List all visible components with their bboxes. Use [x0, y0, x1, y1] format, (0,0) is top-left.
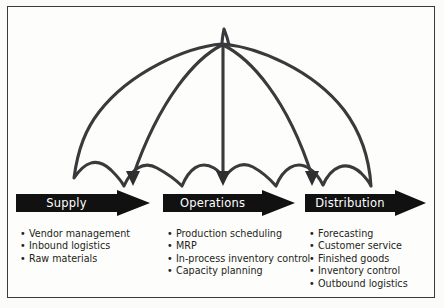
list-item-label: Raw materials — [29, 253, 97, 264]
bullet-icon: • — [167, 228, 173, 240]
list-item: •Finished goods — [309, 253, 408, 265]
list-item: •Raw materials — [20, 253, 130, 265]
stage-list-distribution: •Forecasting •Customer service •Finished… — [309, 228, 408, 290]
bullet-icon: • — [20, 253, 26, 265]
list-item-label: In-process inventory control — [176, 253, 310, 264]
bullet-icon: • — [167, 265, 173, 277]
bullet-icon: • — [167, 240, 173, 252]
bullet-icon: • — [167, 253, 173, 265]
stage-arrow-label-operations: Operations — [163, 190, 262, 216]
bullet-icon: • — [309, 228, 315, 240]
list-item: •Production scheduling — [167, 228, 310, 240]
list-item: •Inventory control — [309, 265, 408, 277]
stage-arrow-label-supply: Supply — [16, 190, 117, 216]
stage-arrow-label-distribution: Distribution — [305, 190, 395, 216]
bullet-icon: • — [20, 228, 26, 240]
bullet-icon: • — [309, 240, 315, 252]
list-item-label: Outbound logistics — [318, 278, 408, 289]
list-item-label: MRP — [176, 240, 197, 251]
stage-list-operations: •Production scheduling •MRP •In-process … — [167, 228, 310, 278]
list-item-label: Forecasting — [318, 228, 373, 239]
list-item-label: Production scheduling — [176, 228, 282, 239]
list-item: •Capacity planning — [167, 265, 310, 277]
bullet-icon: • — [20, 240, 26, 252]
bullet-icon: • — [309, 278, 315, 290]
list-item-label: Capacity planning — [176, 265, 263, 276]
bullet-icon: • — [309, 253, 315, 265]
list-item-label: Customer service — [318, 240, 402, 251]
list-item: •MRP — [167, 240, 310, 252]
list-item: •Customer service — [309, 240, 408, 252]
list-item-label: Inbound logistics — [29, 240, 110, 251]
list-item: •Inbound logistics — [20, 240, 130, 252]
list-item: •Outbound logistics — [309, 278, 408, 290]
list-item-label: Inventory control — [318, 265, 400, 276]
stage-arrow-supply[interactable]: Supply — [16, 190, 150, 216]
list-item: •Forecasting — [309, 228, 408, 240]
bullet-icon: • — [309, 265, 315, 277]
list-item-label: Vendor management — [29, 228, 130, 239]
list-item: •In-process inventory control — [167, 253, 310, 265]
stage-arrow-distribution[interactable]: Distribution — [305, 190, 426, 216]
diagram-canvas: Supply •Vendor management •Inbound logis… — [0, 0, 444, 308]
stage-list-supply: •Vendor management •Inbound logistics •R… — [20, 228, 130, 265]
stage-arrow-operations[interactable]: Operations — [163, 190, 295, 216]
list-item: •Vendor management — [20, 228, 130, 240]
list-item-label: Finished goods — [318, 253, 389, 264]
